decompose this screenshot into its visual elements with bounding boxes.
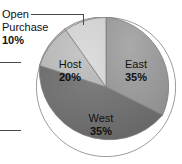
pie-label-open-purchase-value: 10%	[2, 34, 48, 47]
pie-chart-svg	[36, 17, 176, 157]
leader-line-cropped-upper	[0, 62, 21, 63]
pie-chart-screenshot: East 35% West 35% Host 20% Open Purchase…	[0, 0, 182, 164]
leader-line-open-purchase-vertical	[83, 14, 84, 25]
pie-label-open-purchase-line2: Purchase	[2, 21, 48, 34]
leader-line-open-purchase-horizontal	[31, 14, 84, 15]
cropped-chart-title	[0, 0, 182, 5]
pie-chart	[36, 17, 176, 157]
leader-line-cropped-lower	[0, 130, 21, 131]
